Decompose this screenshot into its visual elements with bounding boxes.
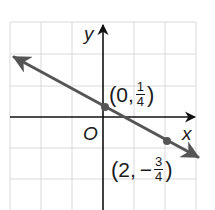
minus-sign: − xyxy=(140,159,152,180)
numerator: 3 xyxy=(154,155,163,170)
denominator: 4 xyxy=(137,95,144,109)
x-coordinate: 2, xyxy=(118,159,136,180)
open-paren: ( xyxy=(109,84,116,106)
y-axis-label: y xyxy=(84,24,94,43)
close-paren: ) xyxy=(147,84,154,106)
point-label-0-one-quarter: ( 0, 1 4 ) xyxy=(109,80,154,109)
coordinate-graph xyxy=(0,0,215,210)
x-coordinate: 0, xyxy=(116,84,134,105)
fraction-three-quarters: 3 4 xyxy=(154,155,163,184)
fraction-one-quarter: 1 4 xyxy=(136,80,145,109)
open-paren: ( xyxy=(111,159,118,181)
point-label-2-neg-three-quarters: ( 2, − 3 4 ) xyxy=(111,155,173,184)
point-2-neg-three-quarters xyxy=(163,137,171,145)
origin-label: O xyxy=(83,124,98,143)
close-paren: ) xyxy=(165,159,172,181)
numerator: 1 xyxy=(136,80,145,95)
point-0-one-quarter xyxy=(101,103,109,111)
x-axis-label: x xyxy=(182,124,192,143)
denominator: 4 xyxy=(155,170,162,184)
